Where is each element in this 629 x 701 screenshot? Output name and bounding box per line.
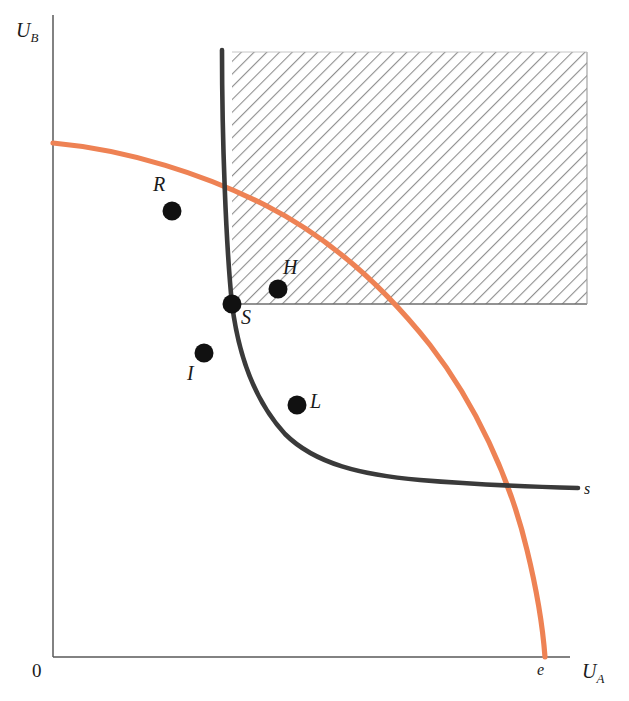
point-label-L: L xyxy=(310,391,321,411)
y-axis-label: UB xyxy=(16,20,38,44)
plot-canvas xyxy=(0,0,629,701)
point-label-H: H xyxy=(283,257,297,277)
point-H xyxy=(269,280,288,299)
economics-utility-possibility-figure: UB UA 0 e s R H S I L xyxy=(0,0,629,701)
point-S xyxy=(223,295,242,314)
x-endpoint-label-e: e xyxy=(537,662,544,678)
point-label-I: I xyxy=(187,363,194,383)
point-label-R: R xyxy=(153,174,165,194)
point-L xyxy=(288,396,307,415)
origin-label: 0 xyxy=(32,661,42,680)
point-label-S: S xyxy=(241,307,251,327)
point-I xyxy=(195,344,214,363)
curve-endpoint-label-s: s xyxy=(584,481,590,497)
point-R xyxy=(163,202,182,221)
x-axis-label: UA xyxy=(582,661,604,685)
